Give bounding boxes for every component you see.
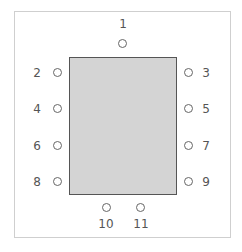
seat-7[interactable] (184, 141, 193, 150)
seat-10[interactable] (102, 203, 111, 212)
seat-11[interactable] (136, 203, 145, 212)
seat-4[interactable] (53, 104, 62, 113)
seat-label-2: 2 (29, 67, 45, 79)
seat-label-6: 6 (29, 140, 45, 152)
seat-label-11: 11 (133, 218, 149, 230)
seat-label-8: 8 (29, 176, 45, 188)
seat-2[interactable] (53, 68, 62, 77)
seat-9[interactable] (184, 177, 193, 186)
seat-8[interactable] (53, 177, 62, 186)
seat-label-4: 4 (29, 103, 45, 115)
seat-1[interactable] (118, 39, 127, 48)
seat-label-3: 3 (198, 67, 214, 79)
seat-3[interactable] (184, 68, 193, 77)
seat-label-7: 7 (198, 140, 214, 152)
table (69, 57, 177, 195)
seat-label-5: 5 (198, 103, 214, 115)
seat-6[interactable] (53, 141, 62, 150)
seat-label-1: 1 (115, 18, 131, 30)
seat-label-9: 9 (198, 176, 214, 188)
seat-5[interactable] (184, 104, 193, 113)
seat-label-10: 10 (98, 218, 114, 230)
